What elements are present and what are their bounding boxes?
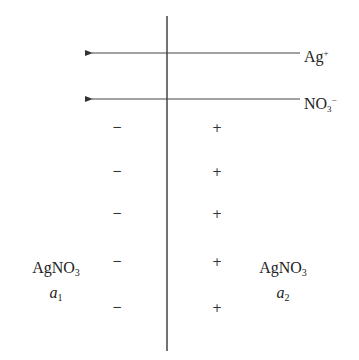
right-formula-text: AgNO bbox=[259, 259, 302, 276]
ag-ion-symbol: Ag bbox=[304, 48, 324, 65]
right-activity-symbol: a bbox=[277, 284, 285, 301]
nitrate-ion-subscript: 3 bbox=[327, 104, 332, 114]
nitrate-ion-label: NO3− bbox=[304, 92, 337, 117]
right-solution-label: AgNO3 a2 bbox=[243, 258, 323, 308]
minus-sign: − bbox=[110, 207, 124, 219]
plus-sign: + bbox=[210, 208, 224, 220]
plus-sign: + bbox=[210, 256, 224, 268]
right-formula-subscript: 3 bbox=[302, 267, 307, 278]
minus-sign: − bbox=[110, 165, 124, 177]
left-solution-formula: AgNO3 bbox=[16, 258, 96, 283]
right-solution-formula: AgNO3 bbox=[243, 258, 323, 283]
left-formula-subscript: 3 bbox=[75, 267, 80, 278]
left-solution-label: AgNO3 a1 bbox=[16, 258, 96, 308]
left-activity-subscript: 1 bbox=[58, 292, 63, 303]
right-activity-subscript: 2 bbox=[285, 292, 290, 303]
plus-sign: + bbox=[210, 122, 224, 134]
right-solution-activity: a2 bbox=[243, 283, 323, 308]
left-solution-activity: a1 bbox=[16, 283, 96, 308]
ag-ion-charge: + bbox=[324, 48, 329, 58]
left-formula-text: AgNO bbox=[32, 259, 75, 276]
ag-ion-label: Ag+ bbox=[304, 45, 329, 65]
nitrate-ion-charge: − bbox=[332, 95, 337, 105]
minus-sign: − bbox=[110, 255, 124, 267]
plus-sign: + bbox=[210, 302, 224, 314]
nitrate-ion-symbol: NO bbox=[304, 95, 327, 112]
left-activity-symbol: a bbox=[50, 284, 58, 301]
plus-sign: + bbox=[210, 166, 224, 178]
minus-sign: − bbox=[110, 121, 124, 133]
minus-sign: − bbox=[110, 301, 124, 313]
